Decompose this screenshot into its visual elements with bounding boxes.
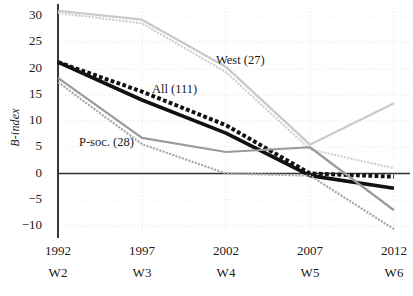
x-tick-wave-1: W3 [107, 265, 177, 281]
x-tick-wave-3: W5 [275, 265, 345, 281]
x-tick-year-1: 1997 [107, 243, 177, 259]
x-tick-wave-0: W2 [23, 265, 93, 281]
chart-figure: B-index 302520151050−5−10 West (27)All (… [0, 0, 413, 296]
series-label-0: West (27) [216, 53, 265, 68]
series-label-2: P-soc. (28) [79, 135, 134, 150]
x-tick-wave-4: W6 [359, 265, 413, 281]
x-tick-year-2: 2002 [191, 243, 261, 259]
x-tick-year-0: 1992 [23, 243, 93, 259]
x-tick-year-3: 2007 [275, 243, 345, 259]
x-tick-wave-2: W4 [191, 265, 261, 281]
x-tick-year-4: 2012 [359, 243, 413, 259]
series-label-1: All (111) [152, 82, 197, 97]
